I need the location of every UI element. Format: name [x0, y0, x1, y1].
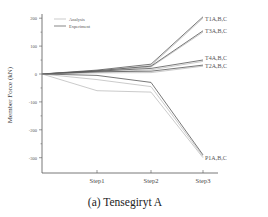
series-line: [42, 74, 203, 155]
series-annotations: T1A,B,CT3A,B,CT4A,B,CT2A,B,CP1A,B,C: [205, 16, 227, 161]
series-line: [42, 74, 203, 158]
member-force-chart: 2001000-100-200-300 Step1Step2Step3 Memb…: [0, 0, 268, 217]
axes: [42, 14, 218, 173]
y-tick-label: -200: [29, 128, 38, 133]
legend-label: Experiment: [69, 24, 91, 29]
y-tick-label: -300: [29, 156, 38, 161]
x-axis-ticks: Step1Step2Step3: [90, 170, 211, 184]
series-annotation: T3A,B,C: [205, 28, 227, 34]
data-series: [42, 17, 203, 158]
y-axis-label: Member Force (kN): [6, 66, 14, 123]
legend: AnalysisExperiment: [54, 17, 91, 29]
y-tick-label: 200: [30, 16, 38, 21]
legend-label: Analysis: [69, 17, 85, 22]
y-tick-label: 0: [35, 72, 38, 77]
series-line: [42, 74, 203, 156]
y-tick-label: -100: [29, 100, 38, 105]
x-tick-label: Step1: [90, 177, 105, 184]
series-annotation: T2A,B,C: [205, 63, 227, 69]
series-annotation: T4A,B,C: [205, 55, 227, 61]
x-tick-label: Step2: [144, 177, 159, 184]
series-annotation: P1A,B,C: [205, 155, 227, 161]
y-tick-label: 100: [30, 44, 38, 49]
figure-caption: (a) Tensegiryt A: [0, 196, 250, 208]
y-axis-ticks: 2001000-100-200-300: [29, 16, 42, 161]
series-annotation: T1A,B,C: [205, 16, 227, 22]
x-tick-label: Step3: [196, 177, 211, 184]
